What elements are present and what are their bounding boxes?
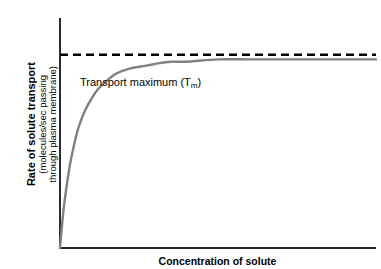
plot-area bbox=[0, 0, 381, 269]
transport-maximum-label-suffix: ) bbox=[198, 76, 202, 88]
solute-transport-chart: Rate of solute transport (molecules/sec … bbox=[0, 0, 381, 269]
x-axis-label: Concentration of solute bbox=[59, 255, 376, 267]
transport-maximum-label-subscript: m bbox=[191, 81, 198, 90]
transport-maximum-label: Transport maximum (Tm) bbox=[80, 77, 201, 88]
transport-maximum-label-prefix: Transport maximum (T bbox=[80, 76, 191, 88]
